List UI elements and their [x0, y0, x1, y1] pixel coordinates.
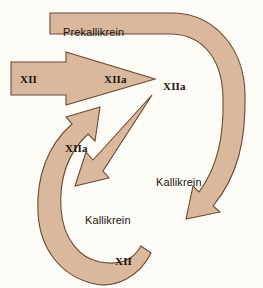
flow-arrow-graphic	[0, 0, 263, 288]
xiia-feedback-arrow	[75, 95, 152, 186]
xii-to-xiia-band	[38, 107, 151, 285]
label-prekallikrein: Prekallikrein	[63, 27, 124, 38]
label-kallikrein-center: Kallikrein	[85, 215, 131, 226]
label-xiia-left-band: XIIa	[65, 143, 88, 154]
label-xii-output: XII	[115, 256, 132, 267]
label-kallikrein-right-band: Kallikrein	[156, 177, 202, 188]
contact-activation-diagram: Prekallikrein XII XIIa XIIa XIIa Kallikr…	[0, 0, 263, 288]
label-xii-input: XII	[20, 74, 37, 85]
label-xiia-arrowhead: XIIa	[104, 74, 127, 85]
label-xiia-center: XIIa	[163, 81, 186, 92]
